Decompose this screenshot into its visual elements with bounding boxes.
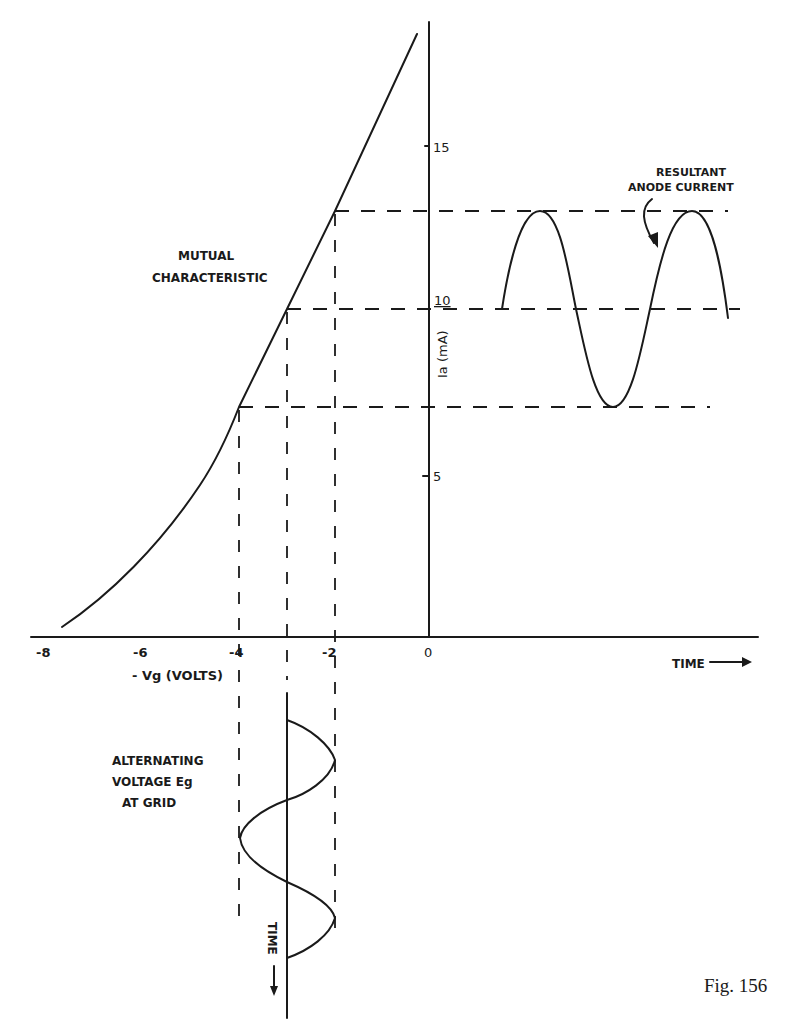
time-axis-label-right: TIME xyxy=(672,657,705,671)
horizontal-projections xyxy=(239,211,740,407)
svg-text:MUTUAL: MUTUAL xyxy=(178,249,235,263)
x-tick-label: -6 xyxy=(133,645,147,660)
y-axis-label: Ia (mA) xyxy=(435,330,450,378)
x-tick-label: -8 xyxy=(36,645,50,660)
mutual-characteristic-curve xyxy=(62,34,417,627)
y-tick-label: 10 xyxy=(434,293,451,308)
svg-text:CHARACTERISTIC: CHARACTERISTIC xyxy=(152,271,268,285)
valve-characteristic-figure: -8 -6 -4 -2 0 15 10 5 - Vg (VOLTS) Ia (m… xyxy=(0,0,789,1026)
x-axis-label: - Vg (VOLTS) xyxy=(132,668,223,683)
svg-text:ANODE CURRENT: ANODE CURRENT xyxy=(628,181,734,194)
figure-caption: Fig. 156 xyxy=(704,975,767,996)
arrow-down-icon xyxy=(270,986,278,996)
y-tick-label: 15 xyxy=(433,140,450,155)
svg-text:AT GRID: AT GRID xyxy=(122,796,176,810)
alternating-voltage-label: ALTERNATING VOLTAGE Eg AT GRID xyxy=(112,754,204,810)
time-axis-label-down: TIME xyxy=(265,922,279,955)
axes xyxy=(31,22,758,637)
svg-text:ALTERNATING: ALTERNATING xyxy=(112,754,204,768)
x-tick-label: -4 xyxy=(229,645,243,660)
mutual-characteristic-label: MUTUAL CHARACTERISTIC xyxy=(152,249,268,285)
y-tick-label: 5 xyxy=(433,469,441,484)
resultant-anode-current-label: RESULTANT ANODE CURRENT xyxy=(628,166,734,194)
y-tick-labels: 15 10 5 xyxy=(433,140,451,484)
svg-text:RESULTANT: RESULTANT xyxy=(656,166,726,179)
svg-text:VOLTAGE Eg: VOLTAGE Eg xyxy=(112,775,193,789)
arrow-right-icon xyxy=(742,657,752,667)
x-tick-label: 0 xyxy=(424,645,432,660)
x-tick-labels: -8 -6 -4 -2 0 xyxy=(36,645,432,660)
